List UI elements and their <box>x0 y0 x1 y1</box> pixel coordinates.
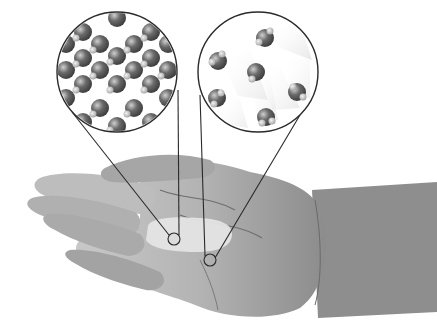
liquid-molecules-inset <box>198 12 318 132</box>
hand <box>27 155 437 318</box>
solid-target-marker <box>168 233 180 245</box>
ice-melting-diagram <box>0 0 437 332</box>
